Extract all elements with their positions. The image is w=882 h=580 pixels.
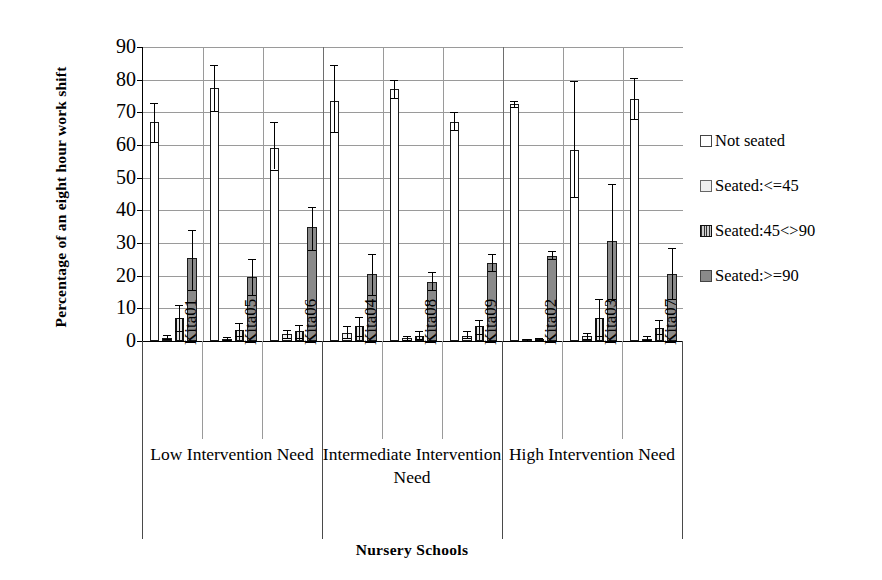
y-axis-title: Percentage of an eight hour work shift [52,32,70,362]
x-axis-band-separator [622,341,623,439]
error-cap-lower [210,111,218,112]
x-axis-tick-label-kita02: Kita02 [541,249,561,345]
error-bar-kita09-series1 [467,331,468,338]
y-axis-tick-mark [137,112,143,113]
error-cap-upper [630,78,638,79]
x-axis-band-separator [382,341,383,439]
error-cap-upper [210,65,218,66]
y-axis-tick-mark [137,47,143,48]
bar-kita02-series0[interactable] [510,104,520,341]
y-axis-tick-label: 10 [90,297,136,317]
series-0-swatch [700,135,712,147]
gridline [143,80,683,81]
x-axis-band-separator [202,341,203,439]
group-band-separator [322,341,323,539]
y-axis-tick-label: 70 [90,101,136,121]
bar-kita08-series0[interactable] [390,89,400,341]
error-bar-kita09-series0 [454,112,455,130]
y-axis-tick-mark [137,178,143,179]
y-axis-tick-mark [137,210,143,211]
y-axis-tick-mark [137,145,143,146]
chart-container: Percentage of an eight hour work shift 0… [0,0,882,580]
error-cap-lower [570,197,578,198]
x-axis-tick-label-kita07: Kita07 [661,249,681,345]
error-cap-upper [510,101,518,102]
x-axis-tick-label-kita06: Kita06 [301,249,321,345]
error-cap-lower [450,130,458,131]
error-cap-lower [643,340,651,341]
error-bar-kita01-series0 [154,103,155,142]
category-separator [383,47,384,341]
error-cap-lower [343,338,351,339]
error-cap-upper [403,336,411,337]
error-cap-upper [283,330,291,331]
y-axis-tick-label: 0 [90,330,136,350]
error-cap-upper [643,336,651,337]
x-axis-tick-label-kita04: Kita04 [361,249,381,345]
series-1-swatch [700,180,712,192]
series-2-swatch [700,225,712,237]
error-cap-upper [270,122,278,123]
error-cap-upper [188,230,196,231]
error-bar-kita04-series0 [334,65,335,132]
legend-item-2[interactable]: Seated:45<>90 [700,222,815,240]
bar-kita04-series0[interactable] [330,101,340,341]
error-cap-upper [450,112,458,113]
error-cap-upper [223,337,231,338]
x-axis-tick-label-kita09: Kita09 [481,249,501,345]
error-cap-lower [223,340,231,341]
group-separator [323,47,324,341]
bar-kita06-series0[interactable] [270,148,280,341]
y-axis-tick-label: 40 [90,199,136,219]
error-cap-lower [523,341,531,342]
bar-kita07-series0[interactable] [630,99,640,341]
group-band-separator [502,341,503,539]
error-bar-kita04-series1 [347,326,348,337]
legend-label-3: Seated:>=90 [715,267,799,285]
legend-label-0: Not seated [715,132,785,150]
y-axis-tick-label: 80 [90,69,136,89]
error-cap-upper [570,81,578,82]
bar-kita01-series0[interactable] [150,122,160,341]
gridline [143,178,683,179]
error-cap-upper [308,207,316,208]
error-bar-kita06-series0 [274,122,275,169]
error-cap-lower [150,142,158,143]
legend-item-3[interactable]: Seated:>=90 [700,267,799,285]
x-axis-band-separator [262,341,263,439]
y-axis-tick-mark [137,80,143,81]
gridline [143,47,683,48]
group-label-1: Intermediate Intervention Need [322,443,502,489]
error-cap-lower [390,98,398,99]
error-bar-kita03-series0 [574,81,575,197]
bar-kita09-series0[interactable] [450,122,460,341]
group-label-0: Low Intervention Need [142,443,322,466]
x-axis-band-separator [562,341,563,439]
error-cap-lower [510,107,518,108]
y-axis-tick-label: 20 [90,265,136,285]
category-separator [263,47,264,341]
error-bar-kita05-series0 [214,65,215,111]
error-cap-lower [403,340,411,341]
error-cap-upper [390,80,398,81]
error-cap-lower [463,338,471,339]
legend-label-1: Seated:<=45 [715,177,799,195]
bar-kita05-series0[interactable] [210,88,220,341]
legend-item-1[interactable]: Seated:<=45 [700,177,799,195]
error-cap-upper [608,184,616,185]
error-cap-lower [283,338,291,339]
legend-item-0[interactable]: Not seated [700,132,785,150]
error-bar-kita06-series3 [312,207,313,249]
group-band-separator [682,341,683,539]
gridline [143,210,683,211]
x-axis-tick-label-kita08: Kita08 [421,249,441,345]
error-cap-upper [330,65,338,66]
gridline [143,112,683,113]
error-cap-lower [270,170,278,171]
group-label-2: High Intervention Need [502,443,682,466]
category-separator [443,47,444,341]
x-axis-band-separator [442,341,443,439]
y-axis-tick-label: 50 [90,167,136,187]
series-3-swatch [700,270,712,282]
error-bar-kita06-series1 [287,330,288,339]
